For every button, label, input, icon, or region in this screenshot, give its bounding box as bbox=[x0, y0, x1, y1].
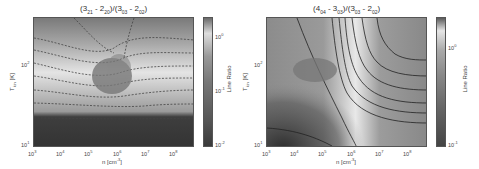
left-cbar-tick-2: 10-2 bbox=[215, 140, 225, 148]
left-heatmap-svg bbox=[34, 18, 194, 147]
left-xtick-2: 105 bbox=[84, 149, 92, 157]
left-xtick-4: 107 bbox=[141, 149, 149, 157]
left-cbar-tick-1: 10-1 bbox=[215, 86, 225, 94]
right-x-axis-label: n [cm-3] bbox=[336, 157, 356, 165]
right-y-axis-label: Tkin [K] bbox=[242, 73, 250, 91]
left-ytick-10-1: 101 bbox=[21, 140, 29, 148]
left-xtick-5: 108 bbox=[169, 149, 177, 157]
left-colorbar bbox=[203, 17, 213, 147]
left-xtick-0: 103 bbox=[28, 149, 36, 157]
right-heatmap-svg bbox=[267, 18, 427, 147]
left-y-axis-label: Tkin [K] bbox=[9, 73, 17, 91]
left-chart-title: (321 - 220)/(303 - 202) bbox=[80, 4, 147, 15]
right-xtick-4: 107 bbox=[375, 149, 383, 157]
right-cbar-tick-0: 100 bbox=[448, 43, 456, 51]
right-colorbar-label: Line Ratio bbox=[462, 65, 468, 92]
left-xtick-3: 106 bbox=[113, 149, 121, 157]
right-ytick-10-1: 101 bbox=[254, 140, 262, 148]
right-cbar-tick-1: 10-1 bbox=[448, 140, 458, 148]
right-xtick-1: 104 bbox=[290, 149, 298, 157]
right-xtick-0: 103 bbox=[262, 149, 270, 157]
right-chart-panel: (404 - 303)/(303 - 202) bbox=[240, 0, 479, 169]
left-colorbar-label: Line Ratio bbox=[226, 65, 232, 92]
right-xtick-2: 105 bbox=[318, 149, 326, 157]
left-heatmap-plot bbox=[33, 17, 194, 147]
left-x-axis-label: n [cm-3] bbox=[102, 157, 122, 165]
right-ytick-10-2: 102 bbox=[254, 60, 262, 68]
right-xtick-3: 106 bbox=[347, 149, 355, 157]
right-chart-title: (404 - 303)/(303 - 202) bbox=[313, 4, 380, 15]
left-xtick-1: 104 bbox=[56, 149, 64, 157]
right-colorbar bbox=[436, 17, 446, 147]
right-heatmap-plot bbox=[266, 17, 427, 147]
left-cbar-tick-0: 100 bbox=[215, 32, 223, 40]
left-ytick-10-2: 102 bbox=[21, 60, 29, 68]
right-xtick-5: 108 bbox=[403, 149, 411, 157]
left-chart-panel: (321 - 220)/(303 - 202) bbox=[0, 0, 240, 169]
